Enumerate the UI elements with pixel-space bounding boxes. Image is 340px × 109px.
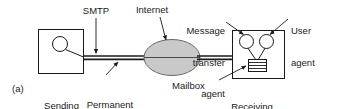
receiving-host-label: Receiving host	[224, 81, 280, 109]
email-architecture-figure: SMTP Internet Message transfer agent Use…	[0, 0, 340, 109]
sending-host-user-agent-icon	[53, 37, 68, 52]
permanent-connection-label-line-1: Permanent	[79, 100, 141, 109]
message-transfer-agent-label: Message transfer agent	[173, 5, 225, 109]
sending-host-label-line-1: Sending	[38, 101, 85, 109]
user-agent-label-line-2: agent	[291, 58, 337, 69]
user-agent-label-line-1: User	[291, 26, 337, 37]
permanent-connection-label: Permanent connection	[79, 79, 141, 109]
message-transfer-agent-label-line-1: Message	[173, 26, 225, 37]
smtp-label: SMTP	[74, 6, 118, 17]
panel-label: (a)	[12, 84, 34, 95]
message-transfer-agent-icon	[240, 35, 254, 49]
user-agent-label: User agent	[291, 5, 337, 89]
internet-leader-arrow	[160, 17, 166, 40]
receiving-host-user-agent-icon	[260, 35, 274, 49]
sending-host-label: Sending host	[38, 80, 85, 109]
receiving-host-label-line-1: Receiving	[224, 102, 280, 109]
internet-label: Internet	[129, 5, 175, 16]
mailbox-label: Mailbox	[172, 81, 220, 92]
permanent-connection-leader-arrow	[106, 62, 118, 75]
message-transfer-agent-label-line-2: transfer	[173, 58, 225, 69]
